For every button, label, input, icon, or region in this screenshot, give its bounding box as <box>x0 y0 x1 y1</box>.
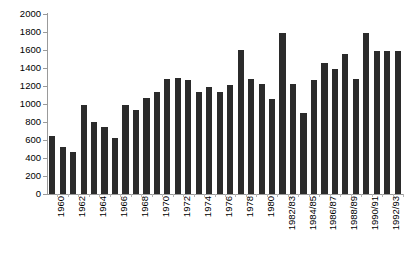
bar <box>279 33 285 194</box>
bar <box>49 136 55 194</box>
bar <box>384 51 390 194</box>
bar-chart: 0200400600800100012001400160018002000 19… <box>0 0 417 255</box>
x-tick-label: 1962 <box>77 196 87 217</box>
bar <box>342 54 348 194</box>
x-tick-mark <box>256 194 257 197</box>
y-tick-label: 1400 <box>1 63 41 73</box>
bar <box>143 98 149 194</box>
y-tick-mark <box>43 194 47 195</box>
bar <box>321 63 327 194</box>
x-tick-mark <box>298 194 299 197</box>
x-tick-label: 1988/89 <box>349 196 359 230</box>
bar <box>81 105 87 194</box>
x-tick-mark <box>225 194 226 197</box>
y-tick-mark <box>43 86 47 87</box>
bar <box>300 113 306 194</box>
x-tick-mark <box>57 194 58 197</box>
x-tick-label: 1976 <box>224 196 234 217</box>
bar <box>196 92 202 194</box>
x-tick-mark <box>152 194 153 197</box>
y-tick-label: 600 <box>1 135 41 145</box>
x-tick-mark <box>204 194 205 197</box>
bar <box>154 92 160 194</box>
y-tick-mark <box>43 50 47 51</box>
bar <box>175 78 181 194</box>
bar <box>133 110 139 194</box>
x-tick-mark <box>162 194 163 197</box>
y-tick-label: 1800 <box>1 27 41 37</box>
x-tick-label: 1970 <box>161 196 171 217</box>
bar <box>374 51 380 194</box>
y-tick-mark <box>43 158 47 159</box>
x-tick-label: 1966 <box>119 196 129 217</box>
x-tick-mark <box>99 194 100 197</box>
x-tick-mark <box>277 194 278 197</box>
x-tick-mark <box>89 194 90 197</box>
x-tick-mark <box>330 194 331 197</box>
y-tick-mark <box>43 68 47 69</box>
x-tick-label: 1986/87 <box>328 196 338 230</box>
bar <box>164 79 170 194</box>
x-tick-mark <box>120 194 121 197</box>
bar <box>395 51 401 194</box>
bar <box>185 80 191 194</box>
bar <box>269 99 275 194</box>
y-axis-labels: 0200400600800100012001400160018002000 <box>0 0 41 255</box>
y-tick-mark <box>43 122 47 123</box>
x-tick-label: 1972 <box>182 196 192 217</box>
bar <box>206 87 212 194</box>
y-tick-label: 1200 <box>1 81 41 91</box>
x-tick-label: 1990/91 <box>370 196 380 230</box>
x-tick-mark <box>235 194 236 197</box>
y-tick-mark <box>43 32 47 33</box>
y-tick-label: 400 <box>1 153 41 163</box>
bar <box>91 122 97 194</box>
x-tick-mark <box>183 194 184 197</box>
x-tick-mark <box>131 194 132 197</box>
bars-layer <box>47 14 403 194</box>
x-tick-label: 1960 <box>56 196 66 217</box>
x-tick-label: 1984/85 <box>308 196 318 230</box>
x-tick-label: 1980 <box>266 196 276 217</box>
bar <box>122 105 128 194</box>
y-tick-mark <box>43 104 47 105</box>
x-tick-label: 1964 <box>98 196 108 217</box>
x-tick-mark <box>141 194 142 197</box>
x-tick-mark <box>194 194 195 197</box>
y-tick-label: 0 <box>1 189 41 199</box>
x-tick-label: 1968 <box>140 196 150 217</box>
bar <box>101 127 107 194</box>
bar <box>363 33 369 194</box>
bar <box>248 79 254 194</box>
bar <box>332 69 338 194</box>
x-tick-mark <box>393 194 394 197</box>
x-tick-mark <box>267 194 268 197</box>
bar <box>311 80 317 194</box>
y-tick-label: 1600 <box>1 45 41 55</box>
x-tick-mark <box>340 194 341 197</box>
x-tick-label: 1978 <box>245 196 255 217</box>
x-tick-mark <box>319 194 320 197</box>
y-tick-label: 2000 <box>1 9 41 19</box>
y-tick-mark <box>43 140 47 141</box>
bar <box>227 85 233 194</box>
x-tick-mark <box>173 194 174 197</box>
bar <box>290 84 296 194</box>
x-tick-label: 1974 <box>203 196 213 217</box>
x-tick-mark <box>372 194 373 197</box>
bar <box>259 84 265 194</box>
x-tick-mark <box>309 194 310 197</box>
x-tick-mark <box>351 194 352 197</box>
x-tick-mark <box>361 194 362 197</box>
x-tick-mark <box>68 194 69 197</box>
y-tick-mark <box>43 176 47 177</box>
x-tick-mark <box>78 194 79 197</box>
y-tick-label: 1000 <box>1 99 41 109</box>
x-tick-mark <box>215 194 216 197</box>
x-tick-label: 1982/83 <box>287 196 297 230</box>
y-tick-mark <box>43 14 47 15</box>
bar <box>353 79 359 194</box>
y-tick-label: 200 <box>1 171 41 181</box>
x-tick-mark <box>246 194 247 197</box>
y-tick-label: 800 <box>1 117 41 127</box>
